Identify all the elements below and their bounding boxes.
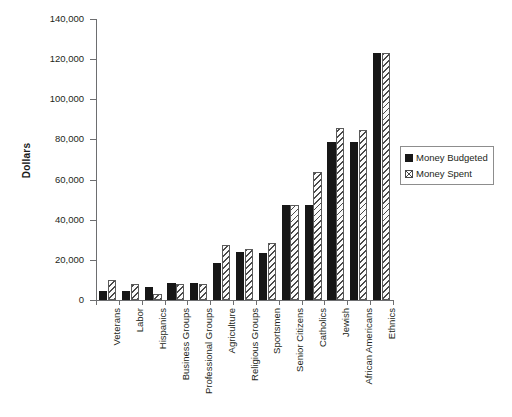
- legend-label: Money Spent: [416, 167, 472, 180]
- x-axis-tick: [393, 300, 394, 305]
- bar: [282, 205, 290, 300]
- x-axis-label-wrap: African Americans: [363, 308, 374, 385]
- x-axis-label-wrap: Religious Groups: [249, 308, 260, 381]
- x-axis-label-wrap: Veterans: [111, 308, 122, 346]
- x-axis-label-wrap: Professional Groups: [203, 308, 214, 394]
- bar: [313, 172, 321, 300]
- bar: [213, 263, 221, 300]
- bar: [167, 283, 175, 300]
- x-axis-label-wrap: Business Groups: [180, 308, 191, 380]
- bar: [268, 243, 276, 300]
- bar: [190, 283, 198, 300]
- bar: [122, 291, 130, 300]
- y-axis-tick-label: 20,000: [20, 254, 84, 265]
- x-axis-tick: [347, 300, 348, 305]
- y-axis-tick-label-wrap: 80,000: [20, 133, 84, 145]
- y-axis-tick-label: 80,000: [20, 133, 84, 144]
- x-axis-tick-label: Agriculture: [226, 308, 237, 353]
- bar: [145, 287, 153, 300]
- y-axis-tick-label: 40,000: [20, 214, 84, 225]
- bar: [336, 128, 344, 300]
- y-axis-tick-label-wrap: 140,000: [20, 13, 84, 25]
- y-axis-tick-label: 100,000: [20, 93, 84, 104]
- solid-square-icon: [405, 154, 413, 162]
- y-axis-tick-label-wrap: 60,000: [20, 174, 84, 186]
- x-axis-label-wrap: Catholics: [317, 308, 328, 347]
- bar: [305, 205, 313, 300]
- x-axis-tick-label: African Americans: [363, 308, 374, 385]
- legend-item-money-spent: Money Spent: [405, 167, 488, 180]
- x-axis-tick: [142, 300, 143, 305]
- y-axis-tick-label-wrap: 120,000: [20, 53, 84, 65]
- x-axis-label-wrap: Jewish: [340, 308, 351, 337]
- x-axis-label-wrap: Senior Citizens: [294, 308, 305, 372]
- x-axis-tick: [187, 300, 188, 305]
- bar: [327, 142, 335, 300]
- y-axis-tick-label: 60,000: [20, 174, 84, 185]
- y-axis-tick-label-wrap: 0: [20, 294, 84, 306]
- bar: [199, 284, 207, 300]
- y-axis-tick-label-wrap: 20,000: [20, 254, 84, 266]
- bar: [222, 245, 230, 300]
- y-axis-tick-label-wrap: 100,000: [20, 93, 84, 105]
- x-axis-tick-label: Hispanics: [157, 308, 168, 349]
- x-axis-tick-label: Jewish: [340, 308, 351, 337]
- bar: [131, 284, 139, 300]
- bar: [350, 142, 358, 300]
- x-axis-tick-label: Professional Groups: [203, 308, 214, 394]
- x-axis-tick: [233, 300, 234, 305]
- y-axis-tick-label: 0: [20, 294, 84, 305]
- x-axis-tick: [210, 300, 211, 305]
- x-axis-tick-label: Labor: [134, 308, 145, 332]
- x-axis-label-wrap: Sportsmen: [271, 308, 282, 354]
- bar: [359, 130, 367, 300]
- legend-label: Money Budgeted: [416, 151, 488, 164]
- x-axis-tick: [302, 300, 303, 305]
- x-axis-tick: [165, 300, 166, 305]
- x-axis-label-wrap: Hispanics: [157, 308, 168, 349]
- x-axis-tick: [119, 300, 120, 305]
- x-axis-tick-label: Ethnics: [386, 308, 397, 339]
- x-axis-tick-label: Catholics: [317, 308, 328, 347]
- bar: [176, 284, 184, 300]
- y-axis-tick-label: 120,000: [20, 53, 84, 64]
- hatched-square-icon: [405, 170, 413, 178]
- x-axis-label-wrap: Ethnics: [386, 308, 397, 339]
- bar: [153, 294, 161, 300]
- x-axis-tick-label: Senior Citizens: [294, 308, 305, 372]
- bar: [290, 205, 298, 300]
- x-axis-tick-label: Business Groups: [180, 308, 191, 380]
- x-axis-label-wrap: Agriculture: [226, 308, 237, 353]
- legend-item-money-budgeted: Money Budgeted: [405, 151, 488, 164]
- bar: [259, 253, 267, 300]
- x-axis-tick-label: Sportsmen: [271, 308, 282, 354]
- x-axis-label-wrap: Labor: [134, 308, 145, 332]
- chart-legend: Money Budgeted Money Spent: [400, 146, 494, 185]
- bar: [245, 249, 253, 300]
- x-axis-tick: [279, 300, 280, 305]
- y-axis-tick-label: 140,000: [20, 13, 84, 24]
- bar: [373, 53, 381, 300]
- x-axis-tick-label: Religious Groups: [249, 308, 260, 381]
- x-axis-tick: [324, 300, 325, 305]
- x-axis-tick-label: Veterans: [111, 308, 122, 346]
- y-axis-tick-label-wrap: 40,000: [20, 214, 84, 226]
- x-axis-tick: [370, 300, 371, 305]
- bar-chart: Dollars 020,00040,00060,00080,000100,000…: [0, 0, 512, 417]
- x-axis-tick: [96, 300, 97, 305]
- x-axis-line: [96, 300, 394, 301]
- plot-area: [96, 19, 393, 300]
- bar: [108, 280, 116, 300]
- bar: [382, 53, 390, 300]
- bar: [99, 291, 107, 300]
- x-axis-tick: [256, 300, 257, 305]
- bar: [236, 252, 244, 300]
